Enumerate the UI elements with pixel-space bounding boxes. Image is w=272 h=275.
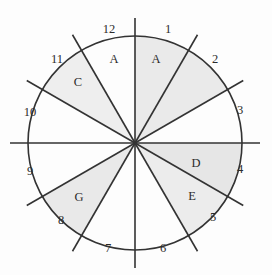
sector-label-c-2: C xyxy=(74,75,82,89)
hour-label-5: 5 xyxy=(210,210,216,224)
hour-label-10: 10 xyxy=(24,105,37,119)
hour-label-1: 1 xyxy=(165,22,171,36)
sector-label-d-3: D xyxy=(191,156,200,170)
hour-label-9: 9 xyxy=(27,164,33,178)
hour-label-3: 3 xyxy=(237,103,243,117)
sector-label-g-5: G xyxy=(74,190,83,204)
hour-label-12: 12 xyxy=(103,22,116,36)
hour-label-8: 8 xyxy=(58,213,64,227)
hour-label-6: 6 xyxy=(160,241,166,255)
diagram-canvas: 123456789101112 AACDEG xyxy=(0,0,272,275)
hour-label-2: 2 xyxy=(212,52,218,66)
diameter-line-group xyxy=(10,18,260,268)
clock-sector-diagram: 123456789101112 AACDEG xyxy=(0,0,272,275)
hour-label-11: 11 xyxy=(51,52,63,66)
hour-label-7: 7 xyxy=(105,241,111,255)
shaded-sector-group xyxy=(42,36,242,236)
sector-label-a-1: A xyxy=(151,52,160,66)
hour-label-4: 4 xyxy=(237,162,244,176)
sector-label-a-0: A xyxy=(109,52,118,66)
hour-number-group: 123456789101112 xyxy=(24,22,244,255)
sector-label-e-4: E xyxy=(188,189,196,203)
